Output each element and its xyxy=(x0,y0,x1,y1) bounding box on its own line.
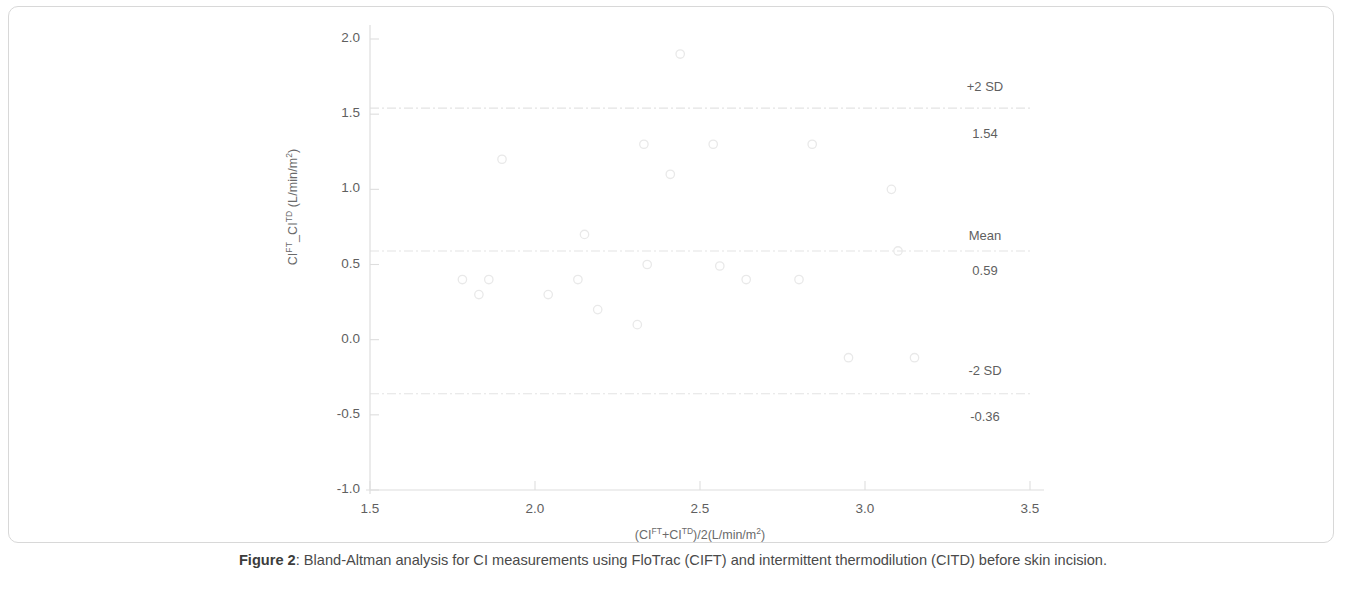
axis-title-part: _CI xyxy=(286,222,300,242)
data-point xyxy=(544,290,552,298)
y-tick-label: 0.0 xyxy=(314,331,360,346)
data-point xyxy=(716,262,724,270)
y-axis-title: CIFT_CITD (L/min/m2) xyxy=(286,122,304,292)
data-point xyxy=(640,140,648,148)
caption-figure-number: Figure 2 xyxy=(239,552,296,568)
x-tick-label: 1.5 xyxy=(340,501,400,516)
upper-limit-value: 1.54 xyxy=(930,126,1040,141)
axis-title-part: (CI xyxy=(635,528,652,542)
x-tick-label: 3.0 xyxy=(835,501,895,516)
x-tick-label: 3.5 xyxy=(1000,501,1060,516)
x-tick-label: 2.0 xyxy=(505,501,565,516)
data-point xyxy=(633,320,641,328)
data-point xyxy=(574,275,582,283)
data-point xyxy=(498,155,506,163)
caption-text: : Bland-Altman analysis for CI measureme… xyxy=(296,552,1107,568)
mean-value: 0.59 xyxy=(930,263,1040,278)
y-tick-label: -0.5 xyxy=(314,406,360,421)
axis-title-part: ) xyxy=(286,149,300,153)
data-point xyxy=(485,275,493,283)
axis-title-superscript: FT xyxy=(652,526,662,536)
data-point xyxy=(458,275,466,283)
reference-lines-group xyxy=(370,108,1030,394)
axis-title-superscript: TD xyxy=(682,526,693,536)
axis-title-superscript: TD xyxy=(284,211,294,223)
upper-limit-label: +2 SD xyxy=(930,79,1040,94)
axis-title-part: ) xyxy=(761,528,765,542)
data-point xyxy=(594,305,602,313)
x-axis-title: (CIFT+CITD)/2(L/min/m2) xyxy=(370,528,1030,542)
axis-title-superscript: FT xyxy=(284,242,294,253)
data-point xyxy=(475,290,483,298)
data-point xyxy=(742,275,750,283)
data-point xyxy=(666,170,674,178)
x-tick-label: 2.5 xyxy=(670,501,730,516)
axis-title-superscript: 2 xyxy=(284,153,294,158)
y-tick-label: 2.0 xyxy=(314,30,360,45)
data-point xyxy=(795,275,803,283)
data-point xyxy=(844,354,852,362)
data-point xyxy=(910,354,918,362)
data-points-group xyxy=(458,50,919,362)
data-point xyxy=(709,140,717,148)
mean-label: Mean xyxy=(930,228,1040,243)
axis-title-part: CI xyxy=(286,253,300,266)
scatter-plot-svg xyxy=(0,0,1346,545)
data-point xyxy=(643,260,651,268)
axis-title-part: (L/min/m xyxy=(286,158,300,211)
data-point xyxy=(808,140,816,148)
lower-limit-label: -2 SD xyxy=(930,363,1040,378)
plot-area xyxy=(0,0,1346,545)
figure-caption: Figure 2: Bland-Altman analysis for CI m… xyxy=(0,552,1346,568)
data-point xyxy=(676,50,684,58)
figure-page: 2.01.51.00.50.0-0.5-1.0 1.52.02.53.03.5 … xyxy=(0,0,1346,596)
axis-title-part: )/2(L/min/m xyxy=(693,528,756,542)
y-tick-label: 0.5 xyxy=(314,256,360,271)
lower-limit-value: -0.36 xyxy=(930,409,1040,424)
data-point xyxy=(580,230,588,238)
axis-title-part: +CI xyxy=(662,528,682,542)
y-tick-label: -1.0 xyxy=(314,481,360,496)
y-tick-label: 1.0 xyxy=(314,180,360,195)
y-tick-label: 1.5 xyxy=(314,105,360,120)
data-point xyxy=(887,185,895,193)
